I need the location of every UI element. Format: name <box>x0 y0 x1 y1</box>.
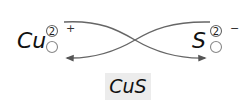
cu-charge-sign: + <box>66 22 75 35</box>
cu-electron-count: 2 <box>49 26 55 37</box>
compound-formula-box: CuS <box>105 73 151 100</box>
cu-electron-circle-empty <box>47 42 58 53</box>
s-symbol: S <box>192 30 206 52</box>
compound-formula: CuS <box>105 76 151 97</box>
s-electron-count: 2 <box>213 26 219 37</box>
arrow-s-to-cu <box>67 22 210 58</box>
s-charge-sign: − <box>230 22 239 35</box>
cu-symbol: Cu <box>17 30 46 52</box>
s-electron-circle-empty <box>211 42 222 53</box>
ionic-bond-diagram: 2 + 2 − Cu S CuS <box>0 0 244 108</box>
